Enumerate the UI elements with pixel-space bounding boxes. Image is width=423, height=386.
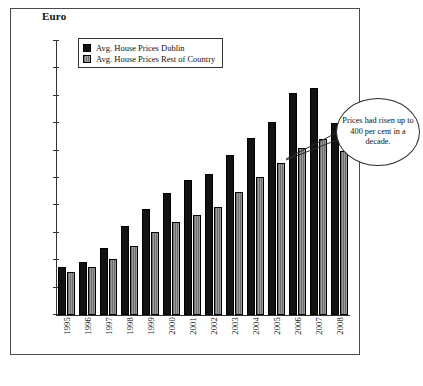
- bar-dublin: [184, 180, 192, 315]
- bar-group: [142, 41, 161, 315]
- x-axis-label: 2005: [272, 317, 282, 335]
- bar-group: [79, 41, 98, 315]
- bar-rest-of-country: [130, 246, 138, 315]
- bar-group: [184, 41, 203, 315]
- x-axis-label: 1997: [104, 317, 114, 335]
- bar-group: [58, 41, 77, 315]
- bar-rest-of-country: [109, 259, 117, 315]
- x-axis-label: 2008: [335, 317, 345, 335]
- bar-rest-of-country: [67, 272, 75, 315]
- x-axis-label: 1999: [146, 317, 156, 335]
- bar-rest-of-country: [172, 222, 180, 315]
- legend-item: Avg. House Prices Rest of Country: [83, 53, 215, 64]
- bar-dublin: [100, 248, 108, 315]
- bar-rest-of-country: [256, 177, 264, 315]
- bar-group: [268, 41, 287, 315]
- x-axis-label: 2003: [230, 317, 240, 335]
- bar-group: [310, 41, 329, 315]
- callout-bubble: Prices had risen up to 400 per cent in a…: [336, 98, 420, 166]
- bar-group: [205, 41, 224, 315]
- bar-group: [163, 41, 182, 315]
- bar-group: [121, 41, 140, 315]
- bar-rest-of-country: [88, 267, 96, 315]
- black-square-icon: [83, 44, 91, 52]
- bar-rest-of-country: [193, 215, 201, 315]
- bar-dublin: [205, 174, 213, 315]
- bar-dublin: [331, 123, 339, 315]
- bar-dublin: [247, 138, 255, 315]
- bar-dublin: [58, 267, 66, 315]
- bar-group: [226, 41, 245, 315]
- x-axis-line: [56, 315, 350, 316]
- gray-striped-square-icon: [83, 55, 91, 63]
- bar-dublin: [163, 193, 171, 315]
- bar-dublin: [268, 122, 276, 315]
- bar-group: [100, 41, 119, 315]
- x-axis-label: 2004: [251, 317, 261, 335]
- x-axis-label: 2006: [293, 317, 303, 335]
- bar-dublin: [79, 262, 87, 315]
- x-axis-label: 1995: [62, 317, 72, 335]
- bar-rest-of-country: [235, 192, 243, 315]
- bar-dublin: [226, 155, 234, 315]
- bar-rest-of-country: [151, 232, 159, 315]
- bar-group: [247, 41, 266, 315]
- bar-rest-of-country: [277, 163, 285, 315]
- bar-rest-of-country: [319, 139, 327, 315]
- bar-dublin: [289, 93, 297, 315]
- bar-series-container: [56, 41, 350, 315]
- bar-rest-of-country: [214, 207, 222, 315]
- x-axis-label: 2001: [188, 317, 198, 335]
- legend-item-label: Avg. House Prices Rest of Country: [96, 54, 215, 64]
- x-axis-label: 1996: [83, 317, 93, 335]
- legend-item: Avg. House Prices Dublin: [83, 42, 215, 53]
- bar-group: [289, 41, 308, 315]
- x-axis-label: 2000: [167, 317, 177, 335]
- bar-dublin: [310, 88, 318, 315]
- bar-rest-of-country: [298, 148, 306, 315]
- x-axis-label: 2007: [314, 317, 324, 335]
- callout-text: Prices had risen up to 400 per cent in a…: [337, 116, 419, 149]
- x-axis-label: 2002: [209, 317, 219, 335]
- x-axis-label: 1998: [125, 317, 135, 335]
- bar-rest-of-country: [340, 151, 348, 315]
- x-axis-labels: 1995199619971998199920002001200220032004…: [56, 317, 350, 357]
- bar-dublin: [142, 209, 150, 315]
- legend-item-label: Avg. House Prices Dublin: [96, 43, 185, 53]
- bar-dublin: [121, 226, 129, 315]
- chart-legend: Avg. House Prices DublinAvg. House Price…: [78, 38, 223, 68]
- bar-group: [331, 41, 350, 315]
